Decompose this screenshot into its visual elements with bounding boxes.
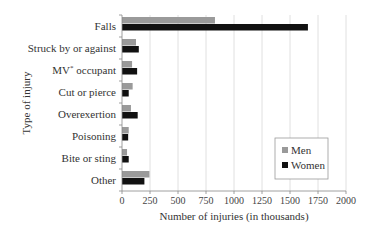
x-tick-label: 250 xyxy=(143,195,158,206)
legend-swatch-men xyxy=(282,147,288,153)
bar-chart: FallsStruck by or againstMV* occupantCut… xyxy=(0,0,377,234)
x-tick-label: 750 xyxy=(199,195,214,206)
category-label: Struck by or against xyxy=(28,42,116,54)
bar-men xyxy=(122,17,215,24)
category-label: Cut or pierce xyxy=(59,86,117,98)
bar-men xyxy=(122,105,131,112)
bar-women xyxy=(122,178,144,185)
category-label: Bite or sting xyxy=(62,152,117,164)
bar-men xyxy=(122,127,129,134)
category-labels: FallsStruck by or againstMV* occupantCut… xyxy=(28,20,117,186)
legend-label-women: Women xyxy=(291,159,325,171)
bar-men xyxy=(122,39,136,46)
bar-women xyxy=(122,134,128,141)
x-tick-label: 2000 xyxy=(336,195,356,206)
bar-women xyxy=(122,156,129,163)
bar-men xyxy=(122,83,133,90)
x-tick-label: 0 xyxy=(120,195,125,206)
category-label: MV* occupant xyxy=(52,64,116,76)
category-label: Other xyxy=(91,174,116,186)
x-tick-label: 1500 xyxy=(280,195,300,206)
legend-label-men: Men xyxy=(291,144,312,156)
x-tick-label: 1000 xyxy=(224,195,244,206)
bar-men xyxy=(122,171,149,178)
x-tick-label: 1250 xyxy=(252,195,272,206)
x-axis-title: Number of injuries (in thousands) xyxy=(159,210,308,223)
bar-women xyxy=(122,24,308,31)
legend: Men Women xyxy=(275,138,328,179)
x-tick-labels: 025050075010001250150017502000 xyxy=(120,195,357,206)
y-axis-title: Type of injury xyxy=(20,71,32,134)
bar-women xyxy=(122,68,137,75)
legend-swatch-women xyxy=(282,162,288,168)
category-label: Overexertion xyxy=(58,108,117,120)
bar-women xyxy=(122,90,129,97)
bar-women xyxy=(122,112,138,119)
category-label: Poisoning xyxy=(72,130,117,142)
bar-women xyxy=(122,46,139,53)
x-tick-label: 500 xyxy=(171,195,186,206)
bar-men xyxy=(122,149,127,156)
bar-men xyxy=(122,61,132,68)
x-tick-label: 1750 xyxy=(308,195,328,206)
category-label: Falls xyxy=(95,20,116,32)
